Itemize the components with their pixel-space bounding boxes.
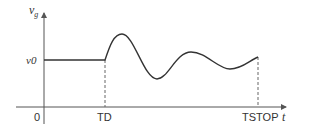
x-axis-label: t (282, 111, 285, 123)
tstop-label: TSTOP (242, 112, 278, 123)
y-axis-label-subscript: g (34, 10, 38, 19)
level-label: v0 (26, 55, 36, 66)
waveform-curve (44, 34, 258, 79)
td-label: TD (97, 112, 112, 123)
y-axis-label: vg (29, 4, 38, 19)
origin-label: 0 (34, 112, 40, 123)
